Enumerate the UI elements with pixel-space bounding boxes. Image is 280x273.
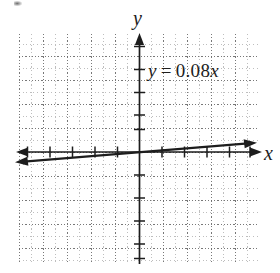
grid-line-horizontal-major xyxy=(19,200,258,201)
grid-line-horizontal-minor xyxy=(19,44,258,45)
equation-lhs: y xyxy=(148,60,157,81)
grid-line-horizontal-major xyxy=(19,248,258,249)
grid-line-horizontal-minor xyxy=(19,116,258,117)
graph-figure: y x y=0.08x xyxy=(0,0,280,273)
grid-line-horizontal-major xyxy=(19,176,258,177)
scan-artifact xyxy=(14,1,22,6)
equation-coefficient: 0.08 xyxy=(176,60,210,81)
grid-line-horizontal-minor xyxy=(19,212,258,213)
grid-line-horizontal-minor xyxy=(19,68,258,69)
grid-line-horizontal-major xyxy=(19,152,258,153)
grid-line-horizontal-minor xyxy=(19,260,258,261)
grid-line-horizontal-minor xyxy=(19,188,258,189)
equation-variable: x xyxy=(210,60,219,81)
grid-line-horizontal-major xyxy=(19,80,258,81)
grid-line-horizontal-minor xyxy=(19,140,258,141)
grid-line-horizontal-minor xyxy=(19,164,258,165)
grid-line-horizontal-minor xyxy=(19,236,258,237)
grid-line-horizontal-major xyxy=(19,56,258,57)
x-axis-label: x xyxy=(264,143,273,163)
grid-line-horizontal-major xyxy=(19,128,258,129)
equation-annotation: y=0.08x xyxy=(148,61,219,80)
grid-line-horizontal-major xyxy=(19,224,258,225)
coordinate-grid xyxy=(19,34,258,264)
y-axis-label: y xyxy=(133,8,142,28)
grid-line-horizontal-major xyxy=(19,104,258,105)
equation-equals: = xyxy=(157,60,176,81)
grid-line-horizontal-minor xyxy=(19,92,258,93)
